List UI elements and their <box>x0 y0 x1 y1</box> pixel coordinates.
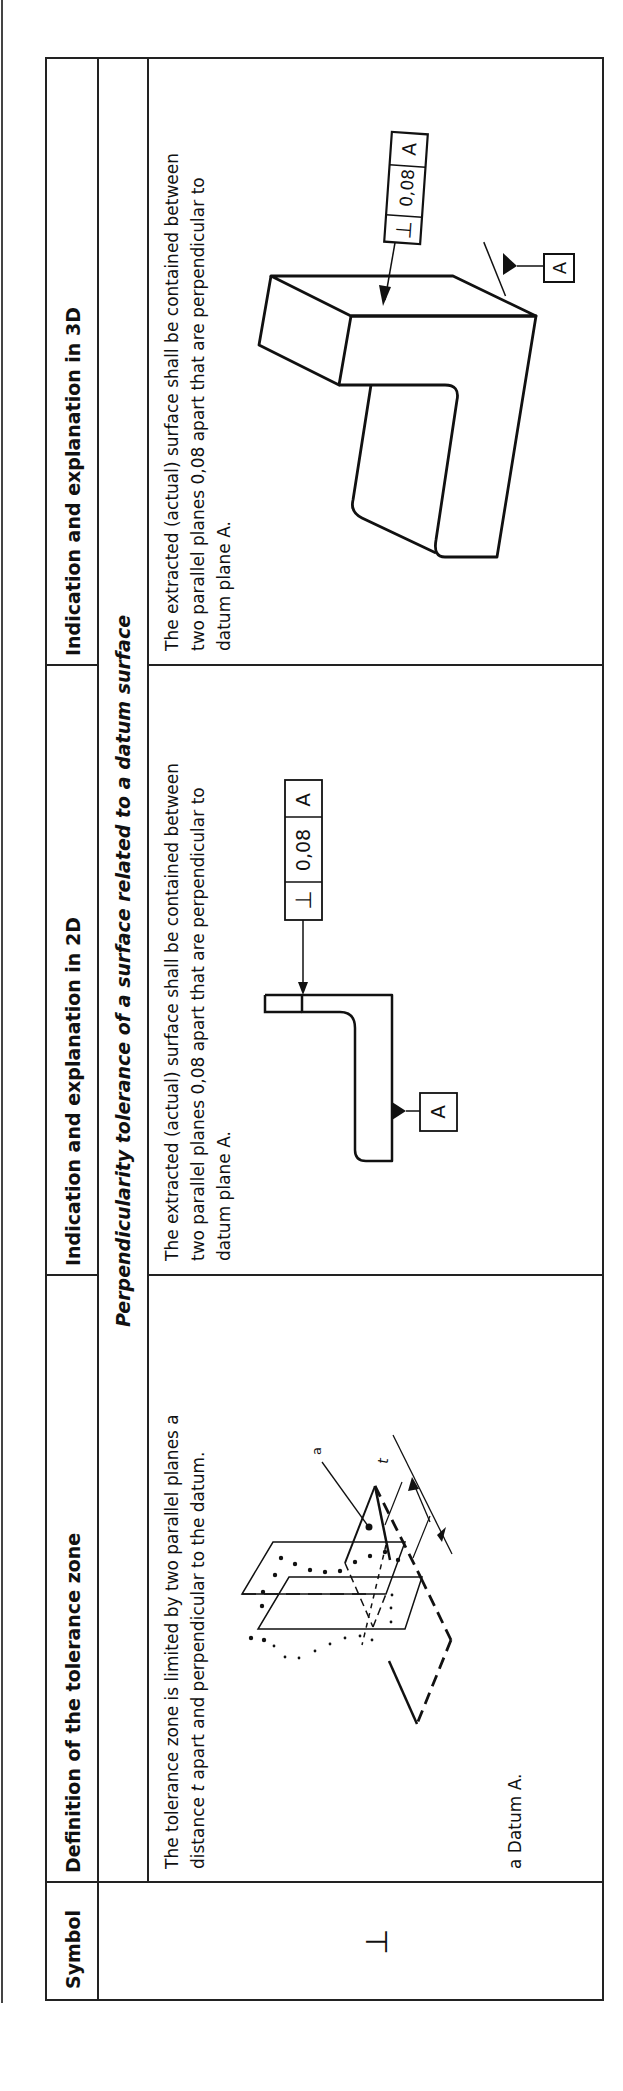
rotated-page: Symbol Definition of the tolerance zone … <box>0 0 623 2091</box>
definition-line-2-post: apart and perpendicular to the datum. <box>188 1452 208 1785</box>
header-symbol: Symbol <box>47 1883 98 1999</box>
definition-line-2-pre: distance <box>188 1792 208 1869</box>
definition-text: The tolerance zone is limited by two par… <box>159 1279 211 1869</box>
definition-line-2: distance t apart and perpendicular to th… <box>185 1279 211 1869</box>
perpendicularity-symbol: ⊥ <box>362 1929 392 1955</box>
definition-line-1: The tolerance zone is limited by two par… <box>159 1279 185 1869</box>
header-2d: Indication and explanation in 2D <box>47 666 98 1276</box>
explanation-2d-line-3: datum plane A. <box>211 671 237 1261</box>
definition-footnote: a Datum A. <box>502 1774 528 1869</box>
explanation-3d-line-3: datum plane A. <box>211 61 237 651</box>
definition-variable-t: t <box>188 1785 208 1792</box>
header-3d: Indication and explanation in 3D <box>47 57 98 666</box>
explanation-3d-line-1: The extracted (actual) surface shall be … <box>159 61 185 651</box>
explanation-2d-text: The extracted (actual) surface shall be … <box>159 671 237 1261</box>
explanation-2d-line-1: The extracted (actual) surface shall be … <box>159 671 185 1261</box>
tolerance-table: Symbol Definition of the tolerance zone … <box>45 57 604 2001</box>
section-title: Perpendicularity tolerance of a surface … <box>98 59 148 1883</box>
header-definition: Definition of the tolerance zone <box>47 1276 98 1883</box>
explanation-3d-line-2: two parallel planes 0,08 apart that are … <box>185 61 211 651</box>
col-divider-definition-body <box>147 1275 602 1277</box>
explanation-3d-text: The extracted (actual) surface shall be … <box>159 61 237 651</box>
col-divider-2d-body <box>147 665 602 667</box>
explanation-2d-line-2: two parallel planes 0,08 apart that are … <box>185 671 211 1261</box>
